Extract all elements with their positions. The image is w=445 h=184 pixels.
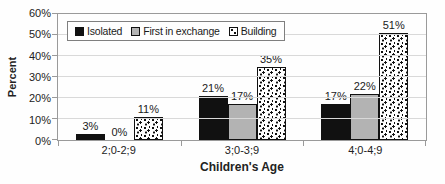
gridline <box>58 55 426 56</box>
bar <box>379 33 408 140</box>
x-tick-label: 3;0-3;9 <box>180 144 303 156</box>
bar-cell: 17% <box>321 14 350 140</box>
bar-cell: 22% <box>350 14 379 140</box>
gridline <box>58 76 426 77</box>
y-tick-label: 60% <box>29 8 51 19</box>
legend-swatch-solid <box>75 27 84 36</box>
y-tick-mark <box>52 97 57 98</box>
legend-label: Isolated <box>87 25 122 37</box>
gridline <box>58 118 426 119</box>
bar <box>228 104 257 140</box>
y-tick-mark <box>52 34 57 35</box>
y-tick-label: 40% <box>29 50 51 61</box>
bar <box>350 94 379 140</box>
y-axis-tick-labels: 0%10%20%30%40%50%60% <box>0 13 51 141</box>
plot-area: IsolatedFirst in exchangeBuilding 3%0%11… <box>57 13 427 141</box>
y-tick-label: 20% <box>29 93 51 104</box>
bar-value-label: 21% <box>202 82 224 94</box>
gridline <box>58 97 426 98</box>
bar-cell: 51% <box>379 14 408 140</box>
bar-chart-figure: Percent 0%10%20%30%40%50%60% IsolatedFir… <box>0 0 445 184</box>
bar <box>257 67 286 141</box>
legend-item: First in exchange <box>131 25 220 37</box>
bar <box>321 104 350 140</box>
y-tick-label: 30% <box>29 72 51 83</box>
bar <box>76 134 105 140</box>
x-axis-tick-labels: 2;0-2;93;0-3;94;0-4;9 <box>57 144 427 156</box>
bar-value-label: 22% <box>354 80 376 92</box>
legend-label: First in exchange <box>143 25 220 37</box>
legend-label: Building <box>241 25 277 37</box>
x-tick-label: 4;0-4;9 <box>304 144 427 156</box>
y-tick-label: 10% <box>29 114 51 125</box>
y-tick-mark <box>52 118 57 119</box>
bar-value-label: 11% <box>138 103 159 115</box>
bar-value-label: 3% <box>82 120 98 132</box>
y-tick-mark <box>52 76 57 77</box>
legend: IsolatedFirst in exchangeBuilding <box>67 21 285 41</box>
y-tick-mark <box>52 55 57 56</box>
legend-item: Isolated <box>75 25 122 37</box>
legend-swatch-solid <box>131 27 140 36</box>
y-tick-label: 50% <box>29 29 51 40</box>
bar-group: 17%22%51% <box>303 14 426 140</box>
bar-value-label: 0% <box>111 126 127 138</box>
legend-swatch-speckle <box>229 27 238 36</box>
y-tick-label: 0% <box>35 136 51 147</box>
legend-item: Building <box>229 25 277 37</box>
x-axis-title: Children's Age <box>57 160 427 174</box>
bar-value-label: 51% <box>383 19 405 31</box>
bar <box>134 117 163 140</box>
y-tick-mark <box>52 139 57 140</box>
x-tick-label: 2;0-2;9 <box>57 144 180 156</box>
y-tick-mark <box>52 13 57 14</box>
